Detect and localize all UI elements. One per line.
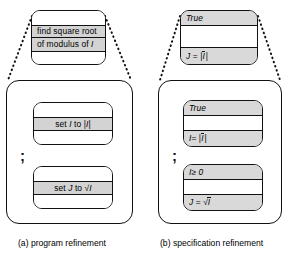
band-precondition: I≥ 0 bbox=[184, 165, 262, 180]
abstract-program-box[interactable]: find square root of modulus of I bbox=[31, 10, 106, 65]
band-postcondition: I= |I | bbox=[184, 131, 262, 146]
band-statement: set J to √I bbox=[34, 181, 112, 195]
band-blank-top bbox=[32, 11, 105, 25]
postcondition-text: I= |I | bbox=[189, 134, 207, 143]
statement-text: set J to √I bbox=[54, 184, 91, 193]
band-blank-bottom bbox=[32, 51, 105, 64]
connector-b-right bbox=[258, 16, 280, 80]
specification-box-i[interactable]: True I= |I | bbox=[183, 100, 263, 147]
connector-a-left bbox=[8, 16, 32, 80]
postcondition-text: J = |I | bbox=[186, 52, 208, 61]
sequence-separator-a: ; bbox=[20, 148, 25, 163]
band-postcondition: J = √I bbox=[184, 195, 262, 210]
band-precondition: True bbox=[184, 101, 262, 116]
precondition-text: True bbox=[186, 14, 203, 23]
connector-b-left bbox=[160, 16, 180, 80]
band-command-line1: find square root bbox=[32, 25, 105, 38]
band-postcondition: J = |I | bbox=[181, 48, 257, 64]
command-text-line1: find square root bbox=[37, 27, 97, 36]
connector-a-right bbox=[105, 16, 131, 80]
statement-text: set I to |I| bbox=[55, 120, 90, 129]
precondition-text: I≥ 0 bbox=[189, 168, 203, 177]
band-blank-middle bbox=[184, 116, 262, 131]
caption-a: (a) program refinement bbox=[18, 238, 106, 248]
precondition-text: True bbox=[189, 104, 206, 113]
postcondition-text: J = √I bbox=[189, 198, 210, 207]
band-blank bbox=[34, 167, 112, 181]
program-box-set-j[interactable]: set J to √I bbox=[33, 166, 113, 209]
band-command-line2: of modulus of I bbox=[32, 38, 105, 51]
band-blank bbox=[34, 195, 112, 209]
command-text-line2: of modulus of I bbox=[37, 40, 93, 49]
band-blank bbox=[34, 131, 112, 145]
refinement-figure: find square root of modulus of I ; set I… bbox=[0, 0, 290, 259]
abstract-specification-box[interactable]: True J = |I | bbox=[180, 10, 258, 65]
sequence-separator-b: ; bbox=[172, 148, 177, 163]
caption-b: (b) specification refinement bbox=[160, 238, 263, 248]
specification-box-j[interactable]: I≥ 0 J = √I bbox=[183, 164, 263, 211]
band-statement: set I to |I| bbox=[34, 117, 112, 131]
band-blank-middle bbox=[181, 26, 257, 48]
band-blank-middle bbox=[184, 180, 262, 195]
band-precondition: True bbox=[181, 11, 257, 26]
band-blank bbox=[34, 103, 112, 117]
program-box-set-i[interactable]: set I to |I| bbox=[33, 102, 113, 145]
